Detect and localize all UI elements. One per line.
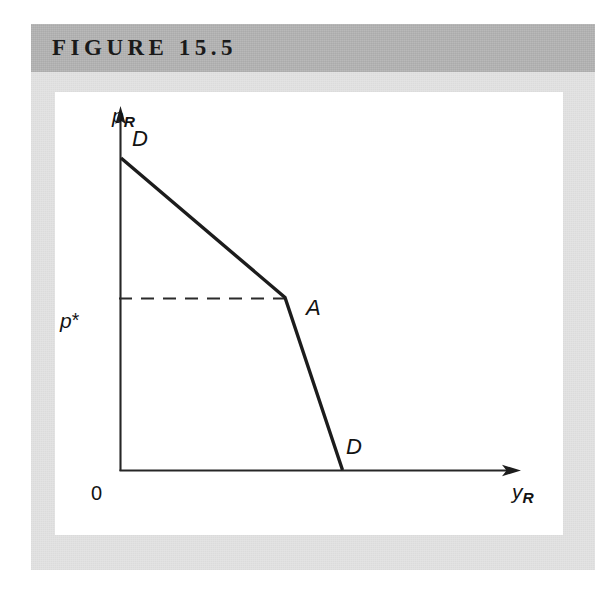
plot-canvas: pR D p* A D 0 yR (55, 92, 563, 535)
demand-curve-top-label: D (132, 128, 148, 150)
figure-header-bar: FIGURE 15.5 (31, 24, 595, 72)
y-axis-label: pR (112, 105, 135, 126)
figure-title: FIGURE 15.5 (52, 35, 237, 61)
x-axis-label-main: y (512, 480, 523, 503)
y-axis-label-main: p (112, 104, 124, 127)
demand-curve-bottom-label: D (346, 436, 362, 458)
figure-panel: FIGURE 15.5 pR D p* A D 0 (31, 24, 595, 570)
x-axis-label-sub: R (523, 489, 534, 506)
price-star-label: p* (60, 310, 79, 331)
price-star-main: p (60, 309, 72, 332)
price-star-mark: * (72, 310, 80, 331)
kink-point-label: A (306, 297, 321, 319)
origin-label: 0 (91, 483, 102, 503)
x-axis-label: yR (512, 481, 534, 502)
